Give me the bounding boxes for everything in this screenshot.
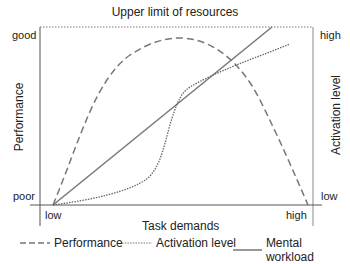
- left-tick-poor: poor: [13, 190, 35, 202]
- legend-item-mental-workload: Mental workload: [233, 236, 350, 264]
- dotted-line-swatch-icon: [122, 240, 152, 246]
- left-tick-good: good: [12, 29, 36, 41]
- legend-label: Mental workload: [266, 236, 350, 264]
- legend-label: Activation level: [156, 236, 236, 250]
- x-tick-low: low: [45, 209, 62, 221]
- legend: Performance Activation level Mental work…: [0, 236, 350, 252]
- legend-label: Performance: [54, 236, 123, 250]
- solid-line-swatch-icon: [233, 247, 262, 253]
- left-axis-label: Performance: [12, 83, 26, 152]
- activation-level-curve: [53, 44, 290, 205]
- dashed-line-swatch-icon: [20, 240, 50, 246]
- right-tick-high: high: [320, 29, 341, 41]
- mental-workload-line: [53, 27, 272, 205]
- x-axis-label: Task demands: [142, 219, 219, 233]
- right-tick-low: low: [321, 190, 338, 202]
- right-axis-label: Activation level: [329, 75, 343, 155]
- legend-item-activation: Activation level: [122, 236, 236, 250]
- legend-item-performance: Performance: [20, 236, 123, 250]
- performance-curve: [53, 38, 308, 205]
- x-tick-high: high: [286, 209, 307, 221]
